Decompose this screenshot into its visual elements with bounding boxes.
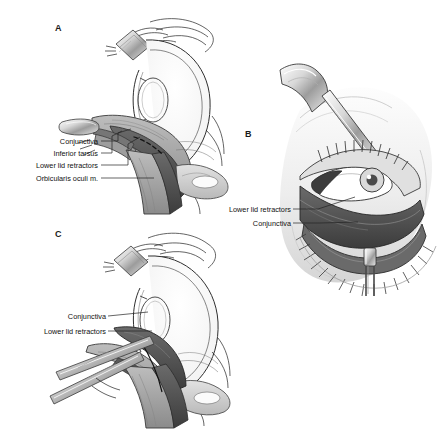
upper-tarsus-c — [114, 246, 148, 276]
panel-letter-b: B — [245, 129, 252, 139]
panel-letter-c: C — [55, 229, 62, 239]
panel-a-artwork — [59, 19, 228, 214]
label-conjunctiva-b: Conjunctiva — [253, 219, 291, 228]
upper-tarsus-a — [116, 30, 150, 60]
label-orbicularis-oculi-a: Orbicularis oculi m. — [36, 174, 98, 183]
illustration-svg — [0, 0, 442, 433]
label-lower-lid-retractors-b: Lower lid retractors — [229, 205, 291, 214]
panel-letter-a: A — [55, 23, 62, 33]
label-lower-lid-retractors-a: Lower lid retractors — [36, 161, 98, 170]
label-conjunctiva-c: Conjunctiva — [68, 312, 106, 321]
figure-canvas: A B C Conjunctiva Inferior tarsus Lower … — [0, 0, 442, 433]
panel-b-artwork — [280, 64, 436, 296]
label-inferior-tarsus-a: Inferior tarsus — [53, 149, 98, 158]
label-conjunctiva-a: Conjunctiva — [60, 137, 98, 146]
label-lower-lid-retractors-c: Lower lid retractors — [44, 327, 106, 336]
